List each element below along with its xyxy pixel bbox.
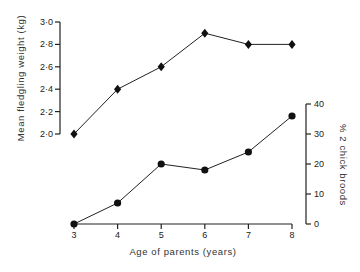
x-tick-label: 4 (115, 230, 120, 240)
left-tick-label: 2·4 (40, 84, 53, 94)
diamond-marker (245, 40, 252, 49)
circle-marker (288, 112, 295, 119)
circle-marker (245, 148, 252, 155)
left-y-axis: 2·02·22·42·62·83·0 (40, 17, 60, 139)
left-axis-label: Mean fledgling weight (kg) (15, 15, 26, 142)
right-tick-label: 0 (314, 219, 319, 229)
circle-marker (114, 199, 121, 206)
series-two-chick-broods (70, 112, 295, 227)
right-axis-label: % 2 chick broods (338, 124, 349, 206)
left-tick-label: 2·8 (40, 39, 53, 49)
x-axis: 345678 (71, 224, 294, 240)
diamond-marker (201, 29, 208, 38)
series-fledgling-weight (70, 29, 295, 139)
x-tick-label: 3 (71, 230, 76, 240)
left-tick-label: 2·2 (40, 107, 53, 117)
x-axis-label: Age of parents (years) (129, 246, 236, 257)
diamond-marker (288, 40, 295, 49)
circle-marker (70, 220, 77, 227)
circle-marker (201, 166, 208, 173)
dual-axis-line-chart: 2·02·22·42·62·83·0 010203040 345678 Mean… (0, 0, 360, 272)
x-tick-label: 6 (202, 230, 207, 240)
circle-marker (158, 160, 165, 167)
x-tick-label: 8 (289, 230, 294, 240)
right-tick-label: 10 (314, 189, 324, 199)
x-tick-label: 5 (159, 230, 164, 240)
right-tick-label: 30 (314, 129, 324, 139)
right-tick-label: 40 (314, 99, 324, 109)
left-tick-label: 2·6 (40, 62, 53, 72)
diamond-marker (158, 62, 165, 71)
right-tick-label: 20 (314, 159, 324, 169)
left-tick-label: 2·0 (40, 129, 53, 139)
x-tick-label: 7 (246, 230, 251, 240)
right-y-axis: 010203040 (306, 99, 324, 229)
left-tick-label: 3·0 (40, 17, 53, 27)
